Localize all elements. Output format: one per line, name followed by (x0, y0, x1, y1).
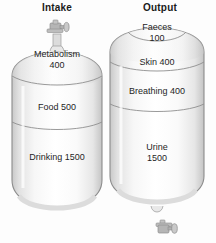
diagram-canvas: Intake Output (0, 0, 216, 243)
valve-tap-icon-output (152, 219, 184, 237)
output-title: Output (104, 2, 216, 13)
intake-title: Intake (0, 2, 114, 13)
valve-tap-icon-intake (44, 19, 74, 35)
intake-tank: Metabolism 400 Food 500 Drinking 1500 (10, 28, 104, 226)
output-tank: Faeces 100 Skin 400 Breathing 400 Urine … (108, 16, 206, 220)
